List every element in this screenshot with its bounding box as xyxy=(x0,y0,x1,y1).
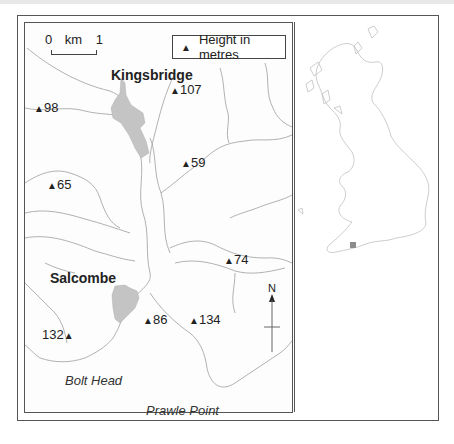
scale-bar-line xyxy=(51,50,97,55)
place-label-prawle-point: Prawle Point xyxy=(146,403,219,418)
scale-end: 1 xyxy=(96,32,103,47)
kingsbridge-area xyxy=(111,78,149,158)
south-devon-highlight xyxy=(350,242,356,248)
spot-height: ▲107 xyxy=(170,82,202,97)
town-label-kingsbridge: Kingsbridge xyxy=(111,67,193,83)
spot-height: ▲98 xyxy=(34,100,58,115)
town-label-salcombe: Salcombe xyxy=(50,270,116,286)
spot-height: ▲74 xyxy=(224,252,248,267)
scale-bar: 0 km 1 xyxy=(45,32,103,47)
spot-height: 132▲ xyxy=(42,327,74,342)
spot-height: ▲65 xyxy=(47,177,71,192)
salcombe-area xyxy=(112,285,139,323)
triangle-icon: ▲ xyxy=(143,315,153,326)
triangle-icon: ▲ xyxy=(64,330,74,341)
triangle-icon: ▲ xyxy=(224,255,234,266)
north-label: N xyxy=(268,282,276,294)
spot-height: ▲59 xyxy=(181,155,205,170)
triangle-icon: ▲ xyxy=(181,158,191,169)
spot-height: ▲86 xyxy=(143,312,167,327)
north-arrow-icon xyxy=(262,294,282,354)
scale-unit: km xyxy=(65,32,82,47)
triangle-icon: ▲ xyxy=(181,42,191,53)
legend: ▲ Height in metres xyxy=(172,35,286,59)
triangle-icon: ▲ xyxy=(189,315,199,326)
top-border xyxy=(0,0,454,4)
inset-divider xyxy=(294,22,295,412)
legend-label: Height in metres xyxy=(199,32,285,62)
triangle-icon: ▲ xyxy=(47,180,57,191)
scale-start: 0 xyxy=(45,32,52,47)
triangle-icon: ▲ xyxy=(34,103,44,114)
triangle-icon: ▲ xyxy=(170,85,180,96)
spot-height: ▲134 xyxy=(189,312,221,327)
place-label-bolt-head: Bolt Head xyxy=(65,373,122,388)
uk-inset-map xyxy=(296,24,436,264)
